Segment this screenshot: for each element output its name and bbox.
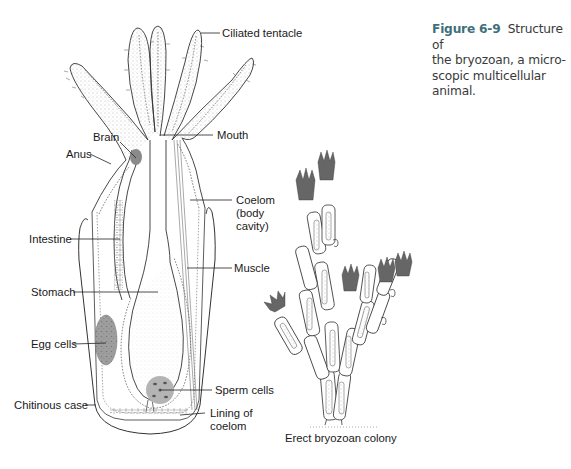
label-ciliated-tentacle: Ciliated tentacle [222,27,302,39]
label-lining-2: coelom [210,420,246,432]
label-mouth: Mouth [217,129,248,141]
brain [130,149,142,165]
label-stomach: Stomach [31,286,76,298]
label-lining-1: Lining of [210,407,254,419]
zooid [64,26,256,434]
label-anus: Anus [66,148,92,160]
label-colony: Erect bryozoan colony [285,432,397,444]
label-egg-cells: Egg cells [31,338,77,350]
label-coelom-1: Coelom [236,194,275,206]
label-muscle: Muscle [234,262,270,274]
label-sperm-cells: Sperm cells [215,384,274,396]
bryozoan-colony [264,150,412,427]
bryozoan-diagram: Ciliated tentacle Mouth Brain Anus Coelo… [0,0,571,469]
egg-cells [95,315,117,365]
label-intestine: Intestine [29,233,72,245]
label-coelom-2: (body [236,207,265,219]
label-brain: Brain [93,131,119,143]
label-chitinous-case: Chitinous case [14,399,88,411]
label-coelom-3: cavity) [236,220,269,232]
